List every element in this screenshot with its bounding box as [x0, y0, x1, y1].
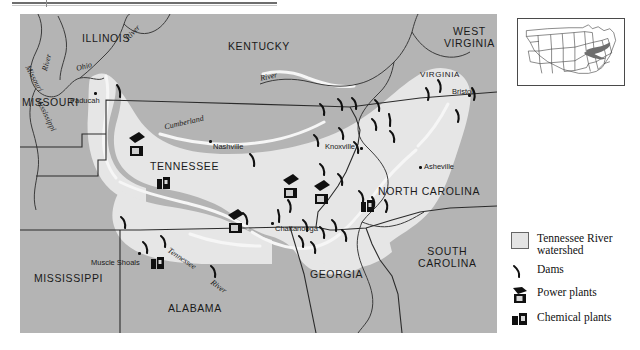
- legend-item-watershed: Tennessee River watershed: [511, 232, 637, 256]
- watershed-swatch-icon: [511, 232, 537, 249]
- us-locator-inset: [517, 18, 625, 86]
- chemical-plant-icon: [511, 311, 537, 327]
- legend-label-chemical-plants: Chemical plants: [537, 311, 611, 323]
- header-rule-shadow: [12, 5, 277, 6]
- legend-item-power-plants: Power plants: [511, 286, 637, 304]
- legend-label-power-plants: Power plants: [537, 286, 597, 298]
- inset-highlight: [585, 42, 611, 59]
- chemical-plant-symbols: [20, 14, 497, 333]
- legend-label-dams: Dams: [537, 263, 564, 275]
- legend-label-watershed: Tennessee River watershed: [537, 232, 637, 256]
- power-plant-icon: [511, 286, 537, 304]
- dam-icon: [511, 263, 537, 279]
- main-map: ILLINOIS KENTUCKY MISSOURI TENNESSEE MIS…: [20, 14, 497, 333]
- us-locator-graphics: [518, 19, 624, 85]
- map-legend: Tennessee River watershed Dams Power pla…: [511, 232, 637, 334]
- header-rule: [12, 2, 277, 4]
- header-rule-tick: [46, 0, 47, 7]
- legend-item-dams: Dams: [511, 263, 637, 279]
- legend-item-chemical-plants: Chemical plants: [511, 311, 637, 327]
